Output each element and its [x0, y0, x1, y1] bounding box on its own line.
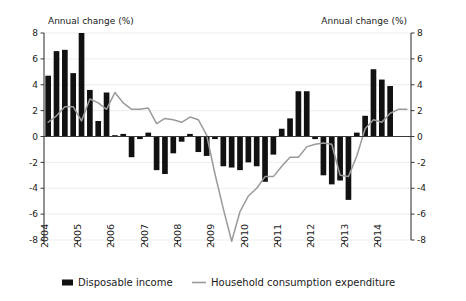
bar-disposable-income: [70, 73, 76, 136]
bar-disposable-income: [129, 137, 135, 158]
bar-disposable-income: [45, 76, 51, 137]
x-tick-label-2007: 2007: [139, 224, 150, 248]
bar-disposable-income: [220, 137, 226, 167]
right-axis-title: Annual change (%): [321, 16, 407, 26]
y-tick-label-right: 8: [417, 28, 423, 38]
y-tick-label-left: -6: [29, 209, 38, 219]
legend-label-disposable-income: Disposable income: [78, 277, 173, 288]
x-tick-label-2012: 2012: [305, 224, 316, 248]
bar-disposable-income: [179, 137, 185, 142]
bar-disposable-income: [237, 137, 243, 171]
x-tick-label-2005: 2005: [72, 224, 83, 248]
y-tick-label-right: -8: [417, 235, 426, 245]
bar-disposable-income: [154, 137, 160, 171]
bar-disposable-income: [104, 93, 110, 137]
x-tick-label-2013: 2013: [339, 224, 350, 248]
bar-disposable-income: [379, 80, 385, 137]
y-tick-label-right: -4: [417, 183, 426, 193]
bar-disposable-income: [195, 137, 201, 153]
bar-disposable-income: [304, 91, 310, 136]
x-tick-label-2011: 2011: [272, 224, 283, 248]
bar-disposable-income: [229, 137, 235, 168]
bar-disposable-income: [62, 50, 68, 137]
bar-disposable-income: [54, 51, 60, 136]
x-tick-label-2009: 2009: [205, 224, 216, 248]
y-tick-label-right: 6: [417, 54, 423, 64]
bar-disposable-income: [387, 86, 393, 136]
y-tick-label-left: 2: [32, 106, 38, 116]
y-tick-label-left: 4: [32, 80, 38, 90]
bar-disposable-income: [296, 91, 302, 136]
x-tick-label-2014: 2014: [372, 224, 383, 248]
y-tick-label-left: -4: [29, 183, 38, 193]
bar-disposable-income: [246, 137, 252, 163]
y-tick-label-left: -2: [29, 158, 38, 168]
bar-disposable-income: [162, 137, 168, 175]
bar-disposable-income: [354, 133, 360, 137]
bar-disposable-income: [279, 129, 285, 137]
y-tick-label-left: 6: [32, 54, 38, 64]
bar-disposable-income: [254, 137, 260, 167]
y-tick-label-right: 2: [417, 106, 423, 116]
legend-swatch-disposable-income: [62, 280, 73, 286]
annual-change-chart: 8866442200-2-2-4-4-6-6-8-8Annual change …: [0, 0, 466, 301]
x-tick-label-2006: 2006: [105, 224, 116, 248]
bar-disposable-income: [371, 69, 377, 136]
x-tick-label-2010: 2010: [239, 224, 250, 248]
y-tick-label-right: 0: [417, 132, 423, 142]
bar-disposable-income: [145, 133, 151, 137]
y-tick-label-left: 0: [32, 132, 38, 142]
y-tick-label-right: 4: [417, 80, 423, 90]
bar-disposable-income: [262, 137, 268, 182]
x-tick-label-2004: 2004: [39, 224, 50, 248]
bar-disposable-income: [271, 137, 277, 155]
bar-disposable-income: [287, 118, 293, 136]
chart-container: 8866442200-2-2-4-4-6-6-8-8Annual change …: [0, 0, 466, 301]
x-tick-label-2008: 2008: [172, 224, 183, 248]
bar-disposable-income: [87, 90, 93, 137]
y-tick-label-left: -8: [29, 235, 38, 245]
left-axis-title: Annual change (%): [48, 16, 134, 26]
y-tick-label-right: -2: [417, 158, 426, 168]
bar-disposable-income: [95, 121, 101, 137]
bar-disposable-income: [170, 137, 176, 154]
legend-label-household-consumption-expenditure: Household consumption expenditure: [211, 277, 395, 288]
line-household-consumption-expenditure: [48, 93, 407, 242]
bar-disposable-income: [346, 137, 352, 200]
y-tick-label-right: -6: [417, 209, 426, 219]
y-tick-label-left: 8: [32, 28, 38, 38]
